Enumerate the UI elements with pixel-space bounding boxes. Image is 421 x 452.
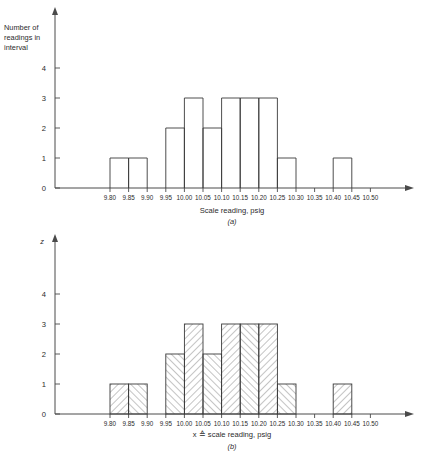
bar (110, 384, 129, 414)
bar (222, 324, 241, 414)
panel-a-svg: Number of readings in interval 0 1 2 3 4 (0, 0, 421, 226)
panel-a-xtick-label-12: 10.40 (325, 194, 341, 201)
bar (277, 384, 296, 414)
panel-b-xtick-label-1: 9.85 (122, 420, 135, 427)
panel-b-bars (110, 324, 352, 414)
panel-b-xtick-label-11: 10.35 (307, 420, 323, 427)
panel-b-ytick-label-3: 3 (42, 320, 46, 329)
panel-a-xtick-label-3: 9.95 (160, 194, 173, 201)
panel-a-ylabel-line-3: interval (4, 43, 28, 52)
panel-a-caption: (a) (227, 217, 237, 226)
panel-a-xtick-label-4: 10.00 (177, 194, 193, 201)
histogram-panel-a: Number of readings in interval 0 1 2 3 4 (0, 0, 421, 226)
panel-b-ylabel: z (39, 237, 44, 246)
panel-b-xaxis-title: x ≙ scale reading, psig (193, 430, 271, 439)
bar (203, 128, 222, 188)
panel-a-xtick-label-8: 10.20 (251, 194, 267, 201)
panel-a-xtick-label-10: 10.30 (288, 194, 304, 201)
panel-b-xtick-label-3: 9.95 (160, 420, 173, 427)
bar (184, 98, 203, 188)
bar (184, 324, 203, 414)
panel-b-xtick-labels: 9.80 9.85 9.90 9.95 10.00 10.05 10.10 10… (104, 420, 379, 427)
panel-b-caption: (b) (227, 442, 237, 451)
panel-a-xaxis-title: Scale reading, psig (200, 206, 265, 215)
panel-b-xtick-label-9: 10.25 (270, 420, 286, 427)
panel-a-ytick-label-4: 4 (42, 64, 46, 73)
bar (259, 324, 278, 414)
bar (333, 384, 352, 414)
panel-a-xtick-label-11: 10.35 (307, 194, 323, 201)
panel-b-xtick-label-4: 10.00 (177, 420, 193, 427)
panel-b-xtick-label-5: 10.05 (195, 420, 211, 427)
panel-a-ylabel-line-1: Number of (4, 23, 39, 32)
panel-a-ytick-label-2: 2 (42, 124, 46, 133)
panel-b-xtick-label-0: 9.80 (104, 420, 117, 427)
panel-a-xtick-label-5: 10.05 (195, 194, 211, 201)
panel-b-ytick-label-4: 4 (42, 290, 46, 299)
panel-b-xtick-label-10: 10.30 (288, 420, 304, 427)
panel-a-xticks (110, 188, 370, 192)
panel-a-ytick-label-3: 3 (42, 94, 46, 103)
panel-b-svg: z 0 1 2 3 4 (0, 226, 421, 452)
panel-b-xtick-label-7: 10.15 (232, 420, 248, 427)
panel-a-ytick-label-1: 1 (42, 154, 46, 163)
bar (259, 98, 278, 188)
bar (166, 128, 185, 188)
panel-a-ytick-label-0: 0 (42, 184, 46, 193)
panel-a-xtick-label-0: 9.80 (104, 194, 117, 201)
panel-a-y-axis-arrow (52, 7, 58, 15)
panel-b-x-axis-arrow (405, 411, 414, 417)
panel-a-xtick-label-7: 10.15 (232, 194, 248, 201)
panel-b-ytick-label-1: 1 (42, 380, 46, 389)
bar (240, 324, 259, 414)
panel-b-xtick-label-13: 10.45 (344, 420, 360, 427)
panel-a-xtick-label-6: 10.10 (214, 194, 230, 201)
panel-a-xtick-label-9: 10.25 (270, 194, 286, 201)
panel-b-xtick-label-2: 9.90 (141, 420, 154, 427)
panel-a-xtick-label-2: 9.90 (141, 194, 154, 201)
bar (166, 354, 185, 414)
panel-b-ytick-label-0: 0 (42, 410, 46, 419)
panel-a-x-axis-arrow (405, 185, 414, 191)
panel-b-xtick-label-8: 10.20 (251, 420, 267, 427)
panel-b-xtick-label-12: 10.40 (325, 420, 341, 427)
panel-a-xtick-label-1: 9.85 (122, 194, 135, 201)
bar (129, 158, 148, 188)
panel-b-xtick-label-14: 10.50 (363, 420, 379, 427)
panel-a-xtick-label-13: 10.45 (344, 194, 360, 201)
panel-b-xticks (110, 414, 370, 418)
panel-a-bars (110, 98, 352, 188)
histogram-panel-b: z 0 1 2 3 4 (0, 226, 421, 452)
panel-b-xtick-label-6: 10.10 (214, 420, 230, 427)
bar (277, 158, 296, 188)
panel-a-xtick-label-14: 10.50 (363, 194, 379, 201)
bar (240, 98, 259, 188)
bar (333, 158, 352, 188)
panel-a-ylabel-line-2: readings in (4, 33, 40, 42)
bar (203, 354, 222, 414)
bar (222, 98, 241, 188)
panel-a-xtick-labels: 9.80 9.85 9.90 9.95 10.00 10.05 10.10 10… (104, 194, 379, 201)
bar (129, 384, 148, 414)
bar (110, 158, 129, 188)
panel-b-ytick-label-2: 2 (42, 350, 46, 359)
panel-b-y-axis-arrow (52, 234, 58, 242)
